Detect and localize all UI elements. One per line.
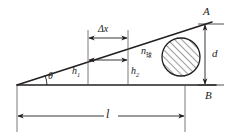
label-height-2-sub: 2 [136,71,139,78]
label-angle-theta: θ [48,71,53,81]
label-point-b: B [205,90,212,101]
label-diameter-d: d [212,48,218,59]
figure-canvas: A B θ Δx h1 h2 d l n球 [0,0,237,139]
label-height-1: h1 [72,66,80,78]
label-point-a: A [203,6,210,17]
diagram-svg [0,0,237,139]
label-body-index: n球 [141,46,152,59]
angle-arc [45,75,47,85]
circular-body [162,38,200,76]
label-height-1-sub: 1 [77,71,80,78]
label-length-l: l [106,108,109,120]
label-height-2: h2 [131,66,139,78]
label-body-index-sub: 球 [146,52,152,58]
label-delta-x: Δx [98,24,108,34]
